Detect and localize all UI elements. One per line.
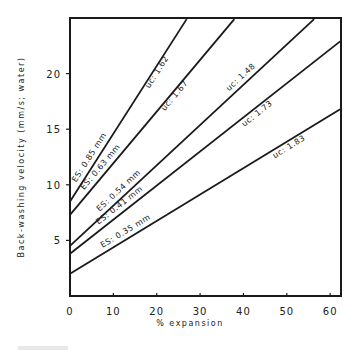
x-tick-label: 40 <box>236 306 251 317</box>
y-axis-label: Back-washing velocity (mm/s; water) <box>17 57 26 258</box>
y-tick-label: 10 <box>46 180 61 191</box>
axis-ticks: 01020304050605101520 <box>46 69 337 317</box>
y-tick-label: 15 <box>46 124 61 135</box>
x-tick-label: 60 <box>323 306 338 317</box>
caption-fragment <box>18 346 68 350</box>
x-tick-label: 50 <box>279 306 294 317</box>
y-tick-label: 5 <box>54 235 61 246</box>
uc-label: uc: 1.67 <box>159 79 189 113</box>
uc-label: uc: 1.83 <box>271 133 307 160</box>
x-tick-label: 10 <box>106 306 121 317</box>
y-tick-label: 20 <box>46 69 61 80</box>
x-tick-label: 0 <box>66 306 73 317</box>
x-axis-label: % expansion <box>156 319 224 328</box>
uc-label: uc: 1.62 <box>143 54 170 90</box>
x-tick-label: 30 <box>193 306 208 317</box>
line-labels: ES: 0.85 mmuc: 1.62ES: 0.63 mmuc: 1.67ES… <box>70 54 307 250</box>
uc-label: uc: 1.73 <box>240 99 274 129</box>
chart: 01020304050605101520 ES: 0.85 mmuc: 1.62… <box>0 0 359 352</box>
x-tick-label: 20 <box>149 306 164 317</box>
